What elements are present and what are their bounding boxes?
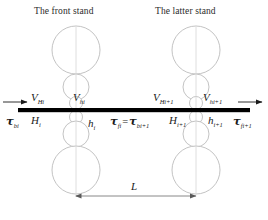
latter-entry-thickness-symbol: H	[169, 114, 177, 126]
interstand-front-tension-symbol: τ	[110, 114, 118, 128]
front-stand-title: The front stand	[34, 6, 94, 16]
latter-exit-thickness-subscript: i+1	[214, 121, 223, 128]
latter-exit-thickness-symbol: h	[208, 114, 214, 126]
interstand-back-tension-subscript: bi+1	[137, 122, 149, 129]
latter-entry-thickness-label: Hi+1	[169, 115, 186, 126]
interstand-tension-equation: τfi=τbi+1	[110, 116, 149, 128]
latter-front-tension-symbol: τ	[233, 114, 241, 128]
front-exit-velocity-symbol: V	[73, 91, 80, 103]
front-back-tension-symbol: τ	[6, 114, 14, 128]
latter-entry-velocity-symbol: V	[153, 91, 160, 103]
latter-front-tension-subscript: fi+1	[241, 122, 252, 129]
strip-material	[18, 108, 250, 112]
latter-entry-velocity-label: VHi+1	[153, 92, 173, 103]
front-entry-thickness-label: Hi	[31, 115, 41, 126]
front-exit-thickness-subscript: i	[94, 124, 96, 131]
front-exit-thickness-symbol: h	[88, 117, 94, 129]
latter-entry-thickness-subscript: i+1	[177, 121, 186, 128]
front-entry-velocity-symbol: V	[31, 91, 38, 103]
rolling-mill-diagram: The front stand The latter stand VHi Vhi…	[0, 0, 268, 220]
front-entry-thickness-subscript: i	[39, 121, 41, 128]
front-entry-thickness-symbol: H	[31, 114, 39, 126]
front-entry-velocity-subscript: Hi	[38, 98, 44, 105]
interstand-equals-sign: =	[121, 116, 129, 127]
front-exit-velocity-subscript: hi	[80, 98, 85, 105]
front-back-tension-subscript: bi	[14, 122, 19, 129]
stand-spacing-label: L	[131, 180, 137, 192]
latter-exit-velocity-symbol: V	[203, 91, 210, 103]
front-back-tension-label: τbi	[6, 116, 19, 128]
front-exit-thickness-label: hi	[88, 118, 95, 129]
interstand-back-tension-symbol: τ	[129, 114, 137, 128]
interstand-front-tension-subscript: fi	[118, 122, 121, 129]
latter-exit-velocity-label: Vhi+1	[203, 92, 222, 103]
latter-entry-velocity-subscript: Hi+1	[160, 98, 174, 105]
latter-exit-velocity-subscript: hi+1	[210, 98, 222, 105]
front-exit-velocity-label: Vhi	[73, 92, 85, 103]
front-entry-velocity-label: VHi	[31, 92, 44, 103]
latter-stand-title: The latter stand	[155, 6, 216, 16]
latter-exit-thickness-label: hi+1	[208, 115, 223, 126]
latter-front-tension-label: τfi+1	[233, 116, 252, 128]
